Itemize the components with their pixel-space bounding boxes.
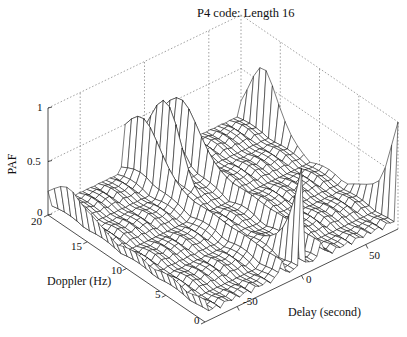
y-tick-10: 10	[111, 265, 122, 276]
z-tick-0.5: 0.5	[27, 156, 41, 167]
y-tick-20: 20	[31, 216, 42, 227]
x-tick-0: 0	[306, 274, 312, 285]
chart-title: P4 code: Length 16	[197, 7, 295, 20]
z-axis-label: PAF	[6, 154, 18, 175]
y-tick-0: 0	[194, 315, 200, 326]
x-tick-50: 50	[369, 250, 380, 261]
y-tick-5: 5	[155, 289, 161, 300]
y-tick-15: 15	[71, 241, 82, 252]
y-axis-label: Doppler (Hz)	[47, 275, 111, 287]
x-axis-label: Delay (second)	[288, 306, 361, 318]
z-tick-1: 1	[37, 102, 43, 113]
x-tick-neg50: -50	[243, 296, 258, 307]
